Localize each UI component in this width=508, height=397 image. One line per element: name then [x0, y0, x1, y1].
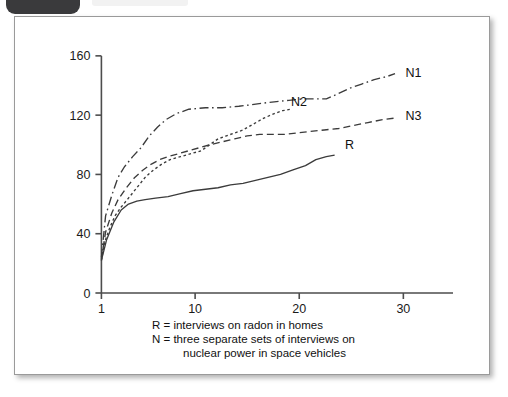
figure-frame: 040801201601102030 N1N2N3R R = interview… — [14, 16, 490, 375]
line-chart: 040801201601102030 N1N2N3R R = interview… — [15, 17, 489, 374]
series-label-r: R — [345, 138, 354, 152]
caption-line-2: N = three separate sets of interviews on — [152, 333, 355, 345]
chart-series — [101, 74, 395, 261]
series-line-n2 — [101, 109, 291, 260]
chart-axes: 040801201601102030 — [70, 49, 453, 316]
caption-line-1: R = interviews on radon in homes — [152, 319, 323, 331]
badge-placeholder-strip — [92, 0, 188, 6]
svg-text:40: 40 — [77, 227, 91, 241]
svg-text:120: 120 — [70, 109, 91, 123]
series-label-n2: N2 — [291, 95, 307, 109]
svg-text:1: 1 — [98, 302, 105, 316]
svg-text:20: 20 — [292, 302, 306, 316]
svg-text:160: 160 — [70, 49, 91, 63]
svg-text:10: 10 — [188, 302, 202, 316]
svg-text:80: 80 — [77, 168, 91, 182]
chart-series-labels: N1N2N3R — [291, 66, 422, 153]
series-label-n3: N3 — [405, 109, 421, 123]
series-line-r — [101, 155, 334, 260]
screenshot-root: 040801201601102030 N1N2N3R R = interview… — [0, 0, 508, 397]
corner-badge — [6, 0, 80, 14]
caption-line-3: nuclear power in space vehicles — [183, 347, 346, 359]
series-line-n1 — [101, 74, 395, 258]
svg-text:30: 30 — [396, 302, 410, 316]
series-label-n1: N1 — [405, 66, 421, 80]
svg-text:0: 0 — [83, 287, 90, 301]
